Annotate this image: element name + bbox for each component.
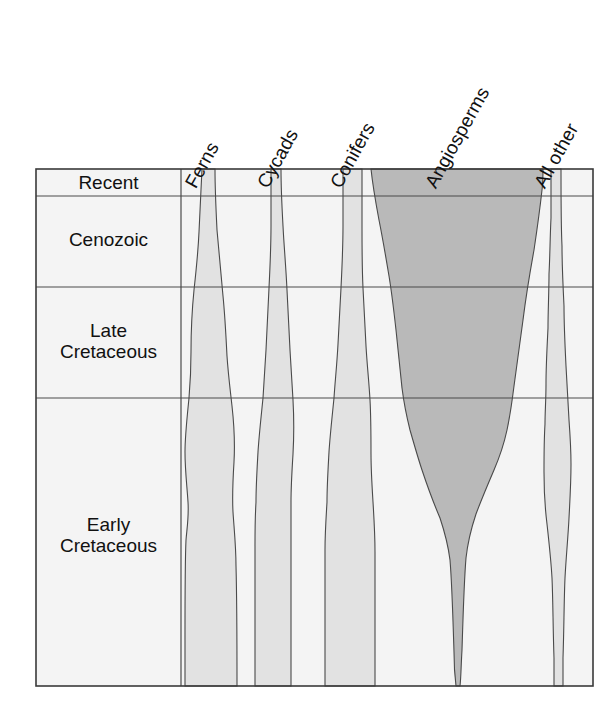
era-label-late-cretaceous: Late Cretaceous	[36, 320, 181, 363]
era-label-early-cretaceous: Early Cretaceous	[36, 514, 181, 557]
era-label-recent: Recent	[36, 172, 181, 193]
era-label-cenozoic: Cenozoic	[36, 229, 181, 250]
spindle-diagram-figure: Ferns Cycads Conifers Angiosperms All ot…	[0, 0, 616, 720]
